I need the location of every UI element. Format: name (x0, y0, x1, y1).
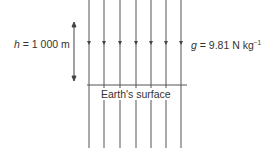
field-diagram (0, 0, 275, 154)
arrow-down-icon (87, 41, 91, 45)
arrow-down-icon (179, 41, 183, 45)
earth-surface-label: Earth's surface (100, 88, 172, 100)
arrow-down-icon (118, 41, 122, 45)
gravity-label: g = 9.81 N kg−1 (191, 39, 261, 51)
height-label: h = 1 000 m (14, 38, 70, 50)
arrow-down-icon (72, 76, 76, 81)
gravity-exponent: −1 (254, 39, 261, 46)
equals-sign: = (197, 39, 209, 51)
downward-arrowheads (87, 41, 183, 45)
field-lines (89, 0, 181, 148)
arrow-down-icon (164, 41, 168, 45)
gravity-value: 9.81 N kg (209, 39, 254, 51)
height-double-arrow (72, 22, 76, 81)
arrow-down-icon (134, 41, 138, 45)
arrow-up-icon (72, 22, 76, 27)
height-value: 1 000 m (32, 38, 70, 50)
arrow-down-icon (102, 41, 106, 45)
equals-sign: = (20, 38, 32, 50)
arrow-down-icon (149, 41, 153, 45)
